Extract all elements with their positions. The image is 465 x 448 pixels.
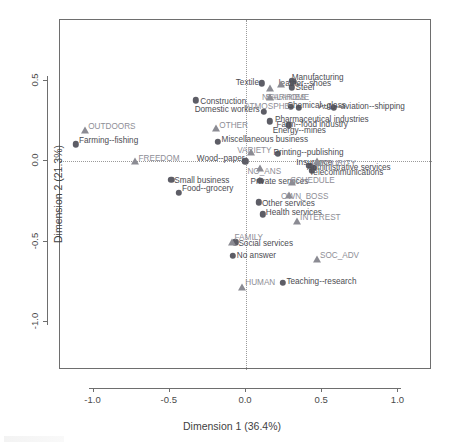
point-label: leather--shoes bbox=[279, 80, 331, 88]
y-tick-label: -0.5 bbox=[29, 232, 40, 248]
category-point-marker[interactable] bbox=[215, 139, 221, 145]
point-label: SALARIES bbox=[266, 94, 306, 102]
y-axis-title: Dimension 2 (21.3%) bbox=[52, 145, 64, 243]
point-label: FREEDOM bbox=[139, 155, 180, 163]
point-label: Wood--paper bbox=[197, 155, 245, 163]
category-point-marker[interactable] bbox=[230, 253, 236, 259]
supplementary-point-marker[interactable] bbox=[277, 81, 285, 88]
y-tick-label: -1.0 bbox=[29, 313, 40, 329]
x-tick-label: -1.0 bbox=[84, 394, 100, 405]
y-tick-label: 0.5 bbox=[29, 73, 40, 86]
point-label: Teaching--research bbox=[286, 278, 356, 286]
point-label: Pharmaceutical industries bbox=[275, 116, 369, 124]
point-label: NO_ANS bbox=[247, 168, 281, 176]
category-point-marker[interactable] bbox=[259, 80, 265, 86]
category-point-marker[interactable] bbox=[192, 97, 198, 103]
x-axis-title: Dimension 1 (36.4%) bbox=[183, 420, 281, 432]
point-label: SCHEDULE bbox=[290, 177, 335, 185]
point-label: OTHER bbox=[219, 122, 248, 130]
category-point-marker[interactable] bbox=[279, 279, 285, 285]
point-label: OUTDOORS bbox=[88, 123, 135, 131]
point-label: VARIETY bbox=[237, 147, 271, 155]
supplementary-point-marker[interactable] bbox=[131, 158, 139, 165]
point-label: Miscellaneous business bbox=[222, 136, 308, 144]
point-label: Farming--fishing bbox=[79, 137, 138, 145]
x-tick-label: 0.0 bbox=[238, 394, 251, 405]
point-label: SECURITY bbox=[315, 160, 356, 168]
point-label: ATMOSPHE bbox=[245, 103, 290, 111]
point-label: INTEREST bbox=[300, 214, 341, 222]
plot-panel: Farming--fishingSmall businessFood--groc… bbox=[59, 19, 431, 369]
point-label: Food--grocery bbox=[182, 185, 233, 193]
point-label: FAMILY bbox=[235, 234, 264, 242]
point-label: SOC_ADV bbox=[320, 252, 359, 260]
y-tick-label: 0.0 bbox=[29, 154, 40, 167]
point-label: Auto--aviation--shipping bbox=[318, 103, 404, 111]
figure-caption-fragment bbox=[4, 436, 64, 442]
x-tick-label: 0.5 bbox=[315, 394, 328, 405]
supplementary-point-marker[interactable] bbox=[212, 125, 220, 132]
point-label: No answer bbox=[237, 252, 276, 260]
vertical-reference-line bbox=[246, 20, 247, 370]
point-label: Printing--publishing bbox=[273, 149, 343, 157]
correspondence-analysis-plot: Farming--fishingSmall businessFood--groc… bbox=[0, 0, 465, 448]
point-label: OWN_BOSS bbox=[281, 193, 328, 201]
point-label: Textile bbox=[236, 79, 259, 87]
category-point-marker[interactable] bbox=[266, 118, 272, 124]
point-label: Other services bbox=[262, 200, 315, 208]
x-tick-label: -0.5 bbox=[161, 394, 177, 405]
x-tick-label: 1.0 bbox=[391, 394, 404, 405]
point-label: HUMAN bbox=[245, 279, 275, 287]
supplementary-point-marker[interactable] bbox=[266, 85, 274, 92]
